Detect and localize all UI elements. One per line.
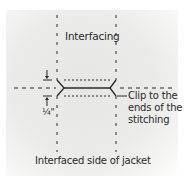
interfacing-label: Interfacing	[65, 30, 120, 42]
callout-line-3: stitching	[128, 114, 169, 126]
callout-line-1: Clip to the	[128, 90, 178, 102]
left-clip	[57, 80, 64, 96]
quarter-inch-label: ¼"	[42, 106, 54, 118]
interfaced-side-label: Interfaced side of jacket	[35, 155, 151, 167]
callout-line-2: ends of the	[128, 102, 182, 114]
right-clip	[110, 80, 116, 96]
